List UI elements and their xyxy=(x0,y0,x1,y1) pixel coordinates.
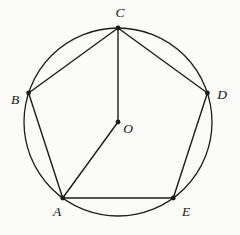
point-dot-O xyxy=(116,120,121,125)
point-label-A: A xyxy=(52,204,62,219)
pentagon-in-circle-diagram: ABCDEO xyxy=(0,0,240,235)
point-dot-C xyxy=(116,26,121,31)
point-dot-E xyxy=(171,196,176,201)
point-label-C: C xyxy=(115,5,125,20)
point-label-O: O xyxy=(123,121,133,136)
point-dot-D xyxy=(205,91,210,96)
point-label-D: D xyxy=(216,87,227,102)
point-label-E: E xyxy=(181,204,191,219)
point-dot-A xyxy=(60,196,65,201)
point-dot-B xyxy=(26,91,31,96)
point-label-B: B xyxy=(11,92,19,107)
geometry-figure: ABCDEO xyxy=(0,0,240,235)
